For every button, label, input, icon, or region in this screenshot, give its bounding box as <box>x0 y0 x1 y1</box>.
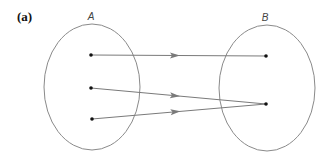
set-a-element-point <box>89 86 93 90</box>
set-b-element-point <box>264 54 268 58</box>
mapping-diagram: (a) AB <box>0 0 332 160</box>
set-b-label: B <box>262 12 269 23</box>
sets-layer: AB <box>44 11 315 151</box>
set-a-label: A <box>87 11 95 22</box>
points-layer <box>89 53 268 121</box>
panel-label: (a) <box>17 9 32 24</box>
set-b-ellipse <box>219 25 315 151</box>
set-a-element-point <box>90 117 94 121</box>
set-b-element-point <box>264 102 268 106</box>
set-a-element-point <box>89 53 93 57</box>
arrows-layer <box>91 52 266 119</box>
